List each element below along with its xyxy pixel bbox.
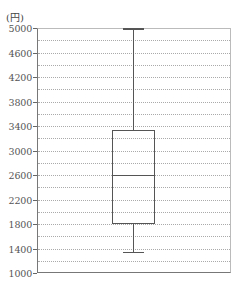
y-tick-mark [33,224,37,225]
y-tick-label: 1000 [0,268,32,279]
gridline [38,114,230,115]
gridline [38,65,230,66]
gridline [38,261,230,262]
y-tick-label: 4600 [0,47,32,58]
gridline [38,224,230,225]
gridline [38,89,230,90]
y-tick-label: 2600 [0,170,32,181]
y-tick-mark [33,77,37,78]
y-tick-mark [33,273,37,274]
y-tick-mark [33,126,37,127]
interquartile-box [112,130,155,224]
cropped-text-fragment [0,0,237,6]
y-tick-mark [33,200,37,201]
lower-whisker [133,223,134,252]
gridline [38,40,230,41]
y-tick-label: 3000 [0,145,32,156]
gridline [38,102,230,103]
y-tick-label: 3800 [0,96,32,107]
median-line [112,175,155,176]
y-tick-mark [33,53,37,54]
y-tick-mark [33,28,37,29]
gridline [38,126,230,127]
gridline [38,77,230,78]
gridline [38,236,230,237]
y-tick-mark [33,175,37,176]
y-tick-label: 1800 [0,219,32,230]
y-tick-mark [33,151,37,152]
y-tick-label: 4200 [0,72,32,83]
gridline [38,249,230,250]
y-tick-mark [33,102,37,103]
y-tick-label: 2200 [0,194,32,205]
y-tick-mark [33,249,37,250]
y-tick-label: 5000 [0,23,32,34]
y-tick-label: 1400 [0,243,32,254]
upper-whisker [133,28,134,130]
min-whisker-cap [123,252,144,253]
gridline [38,53,230,54]
y-tick-label: 3400 [0,121,32,132]
